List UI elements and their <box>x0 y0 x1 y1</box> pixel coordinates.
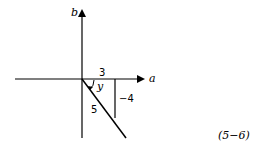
opposite-label: −4 <box>119 93 134 104</box>
b-axis-arrow-icon <box>78 9 86 17</box>
hypotenuse <box>82 79 126 138</box>
adjacent-label: 3 <box>99 67 105 78</box>
angle-label: y <box>96 80 104 93</box>
a-axis-label: a <box>149 72 156 85</box>
a-axis-arrow-icon <box>137 75 145 83</box>
equation-number: (5−6) <box>218 129 250 142</box>
hypotenuse-label: 5 <box>91 104 97 115</box>
b-axis-label: b <box>71 6 78 19</box>
complex-plane-diagram: a b 3 y −4 5 (5−6) <box>0 0 270 158</box>
